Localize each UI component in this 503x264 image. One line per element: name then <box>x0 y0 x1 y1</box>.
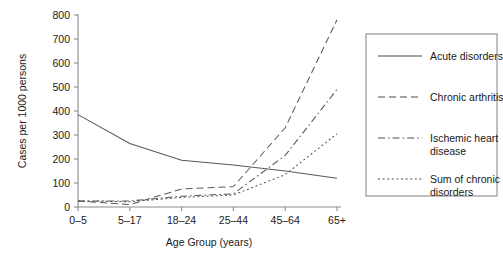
y-tick-label: 300 <box>52 129 70 141</box>
x-axis-tick-labels: 0–55–1718–2425–4445–6465+ <box>69 214 346 226</box>
legend-label-2: disease <box>430 145 466 157</box>
series-line-acute-disorders <box>78 115 337 179</box>
x-axis-ticks <box>78 207 337 211</box>
y-tick-label: 600 <box>52 57 70 69</box>
y-axis-tick-labels: 0100200300400500600700800 <box>52 9 70 213</box>
y-tick-label: 0 <box>64 201 70 213</box>
y-tick-label: 700 <box>52 33 70 45</box>
y-tick-label: 800 <box>52 9 70 21</box>
line-chart: 0100200300400500600700800 0–55–1718–2425… <box>0 0 503 264</box>
legend-label-1: Chronic arthritis <box>430 91 503 103</box>
x-tick-label: 0–5 <box>69 214 87 226</box>
legend-label-0: Acute disorders <box>430 50 503 62</box>
series-line-ischemic-heart-disease <box>78 89 337 201</box>
y-tick-label: 400 <box>52 105 70 117</box>
legend-label-2: Ischemic heart <box>430 132 498 144</box>
chart-figure: 0100200300400500600700800 0–55–1718–2425… <box>0 0 503 264</box>
x-tick-label: 25–44 <box>219 214 248 226</box>
series-line-sum-of-chronic-disorders <box>78 134 337 202</box>
y-tick-label: 100 <box>52 177 70 189</box>
x-axis-title: Age Group (years) <box>166 236 252 248</box>
y-tick-label: 200 <box>52 153 70 165</box>
y-axis-ticks <box>74 15 78 207</box>
series-line-chronic-arthritis <box>78 20 337 205</box>
y-tick-label: 500 <box>52 81 70 93</box>
x-tick-label: 5–17 <box>118 214 142 226</box>
legend-label-3: Sum of chronic <box>430 173 500 185</box>
data-series-group <box>78 20 337 205</box>
x-tick-label: 45–64 <box>271 214 300 226</box>
x-tick-label: 18–24 <box>167 214 196 226</box>
x-tick-label: 65+ <box>328 214 346 226</box>
y-axis-title: Cases per 1000 persons <box>16 54 28 168</box>
legend-label-3: disorders <box>430 186 473 198</box>
